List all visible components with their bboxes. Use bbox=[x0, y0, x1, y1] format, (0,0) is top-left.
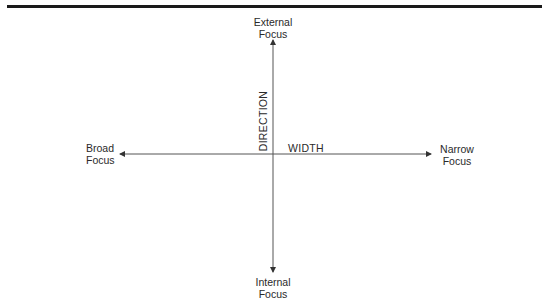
width-axis-title: WIDTH bbox=[288, 142, 324, 154]
broad-focus-line2: Focus bbox=[86, 154, 115, 166]
internal-focus-line2: Focus bbox=[253, 288, 293, 300]
narrow-focus-label: Narrow Focus bbox=[432, 143, 482, 167]
broad-focus-label: Broad Focus bbox=[86, 142, 115, 166]
narrow-focus-line2: Focus bbox=[432, 155, 482, 167]
external-focus-line2: Focus bbox=[253, 28, 293, 40]
internal-focus-line1: Internal bbox=[253, 276, 293, 288]
direction-axis-title: DIRECTION bbox=[257, 86, 269, 156]
narrow-focus-line1: Narrow bbox=[432, 143, 482, 155]
external-focus-label: External Focus bbox=[253, 16, 293, 40]
broad-focus-line1: Broad bbox=[86, 142, 115, 154]
external-focus-line1: External bbox=[253, 16, 293, 28]
internal-focus-label: Internal Focus bbox=[253, 276, 293, 300]
